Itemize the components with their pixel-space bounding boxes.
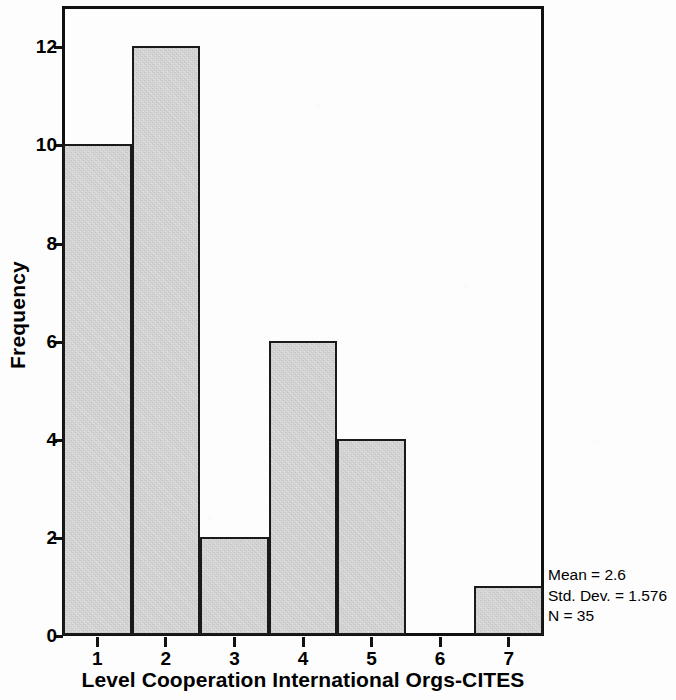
x-axis-tick-label: 2: [161, 649, 172, 668]
y-axis-tick-label: 2: [46, 527, 57, 546]
y-axis-tick-label: 12: [36, 37, 57, 56]
histogram-bar: [269, 341, 338, 635]
x-axis-tick-label: 4: [298, 649, 309, 668]
y-axis-tick-label: 6: [46, 331, 57, 350]
x-axis-tick-label: 1: [92, 649, 103, 668]
histogram-bar: [200, 537, 269, 635]
x-axis-tick-mark: [164, 637, 167, 647]
x-axis-tick-mark: [96, 637, 99, 647]
x-axis-tick-mark: [302, 637, 305, 647]
x-axis-tick-mark: [370, 637, 373, 647]
x-axis-tick-label: 3: [229, 649, 240, 668]
x-axis-tick-mark: [233, 637, 236, 647]
x-axis-tick-label: 5: [366, 649, 377, 668]
y-axis-tick-label: 4: [46, 429, 57, 448]
histogram-bar: [132, 46, 201, 635]
x-axis-tick-label: 7: [503, 649, 514, 668]
histogram-bar: [63, 144, 132, 635]
y-axis-tick-label: 0: [46, 626, 57, 645]
stat-n: N = 35: [548, 606, 667, 627]
x-axis-tick-mark: [507, 637, 510, 647]
y-axis-tick-label: 10: [36, 135, 57, 154]
stat-std-dev: Std. Dev. = 1.576: [548, 586, 667, 607]
x-axis-title: Level Cooperation International Orgs-CIT…: [63, 668, 543, 692]
y-axis-title: Frequency: [2, 0, 34, 630]
plot-area: [63, 7, 543, 635]
histogram-figure: Frequency 024681012 1234567 Level Cooper…: [0, 0, 676, 700]
y-axis-tick-label: 8: [46, 233, 57, 252]
x-axis-tick-label: 6: [435, 649, 446, 668]
x-axis-ticks: 1234567: [63, 637, 543, 671]
y-axis-title-label: Frequency: [6, 261, 30, 369]
stat-mean: Mean = 2.6: [548, 565, 667, 586]
histogram-bar: [337, 439, 406, 635]
statistics-annotation: Mean = 2.6 Std. Dev. = 1.576 N = 35: [548, 565, 667, 627]
histogram-bar: [474, 586, 543, 635]
x-axis-tick-mark: [439, 637, 442, 647]
